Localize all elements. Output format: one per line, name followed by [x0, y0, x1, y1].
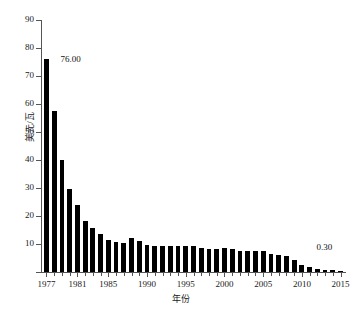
- bar: [160, 246, 165, 272]
- x-axis-tick: [333, 273, 334, 276]
- bar: [183, 246, 188, 272]
- x-axis-tick: [209, 273, 210, 276]
- x-axis-tick: [62, 273, 63, 276]
- bar: [83, 221, 88, 272]
- bar: [152, 246, 157, 272]
- x-axis-tick-label: 2000: [215, 279, 233, 289]
- x-axis-tick: [286, 273, 287, 276]
- x-axis-tick: [240, 273, 241, 276]
- x-axis-tick: [147, 273, 148, 277]
- x-axis-tick-label: 1995: [177, 279, 195, 289]
- x-axis-tick: [217, 273, 218, 276]
- x-axis-tick: [279, 273, 280, 276]
- x-axis-tick: [341, 273, 342, 277]
- y-axis-tick-label: 20: [25, 211, 34, 220]
- x-axis-tick-label: 2010: [293, 279, 311, 289]
- bar: [307, 267, 312, 272]
- x-axis-tick: [248, 273, 249, 276]
- x-axis-tick: [124, 273, 125, 276]
- bar: [284, 256, 289, 272]
- bar: [245, 251, 250, 272]
- x-axis-tick-label: 1985: [99, 279, 117, 289]
- bar: [121, 243, 126, 272]
- x-axis-tick: [232, 273, 233, 276]
- y-axis-tick-label: 90: [25, 15, 34, 24]
- bar: [207, 249, 212, 272]
- x-axis-tick: [70, 273, 71, 276]
- bar: [222, 248, 227, 272]
- bar: [90, 228, 95, 272]
- x-axis-tick-label: 2015: [332, 279, 350, 289]
- y-axis-tick: [36, 272, 41, 273]
- x-axis-tick: [139, 273, 140, 276]
- x-axis-tick-label: 1981: [68, 279, 86, 289]
- data-point-label: 76.00: [60, 55, 80, 64]
- bar: [338, 271, 343, 272]
- x-axis-tick: [186, 273, 187, 277]
- x-axis-tick: [294, 273, 295, 276]
- bar: [214, 249, 219, 272]
- bar: [168, 246, 173, 272]
- bar: [114, 242, 119, 272]
- bar: [60, 160, 65, 272]
- x-axis-tick: [263, 273, 264, 277]
- x-axis-tick: [163, 273, 164, 276]
- bar: [261, 251, 266, 272]
- x-axis-title: 年份: [0, 294, 361, 304]
- y-axis-tick-label: 30: [25, 183, 34, 192]
- bar: [106, 240, 111, 272]
- x-axis-tick: [325, 273, 326, 276]
- y-axis-tick-label: 10: [25, 239, 34, 248]
- x-axis-tick: [85, 273, 86, 276]
- bar: [292, 260, 297, 272]
- bar: [238, 251, 243, 272]
- x-axis-tick-label: 1977: [37, 279, 55, 289]
- x-axis-tick-label: 1990: [138, 279, 156, 289]
- solar-price-bar-chart: 102030405060708090 197719811985199019952…: [0, 0, 361, 317]
- data-point-label: 0.30: [317, 243, 333, 252]
- bar: [323, 270, 328, 272]
- bars-layer: [41, 20, 346, 272]
- x-axis-tick: [302, 273, 303, 277]
- x-axis-tick: [101, 273, 102, 276]
- x-axis-tick: [108, 273, 109, 277]
- bar: [98, 234, 103, 272]
- bar: [315, 269, 320, 272]
- bar: [253, 251, 258, 272]
- bar: [137, 241, 142, 272]
- x-axis-tick: [132, 273, 133, 276]
- x-axis-tick: [170, 273, 171, 276]
- bar: [75, 205, 80, 272]
- x-axis-tick: [155, 273, 156, 276]
- y-axis-tick-label: 70: [25, 71, 34, 80]
- x-axis-tick: [310, 273, 311, 276]
- bar: [52, 111, 57, 272]
- y-axis-tick-label: 80: [25, 43, 34, 52]
- y-axis-title: 美元/瓦: [25, 95, 35, 159]
- bar: [176, 246, 181, 272]
- x-axis-tick: [194, 273, 195, 276]
- bar: [330, 270, 335, 272]
- x-axis-tick-label: 2005: [254, 279, 272, 289]
- bar: [129, 238, 134, 272]
- x-axis-tick: [46, 273, 47, 277]
- bar: [145, 245, 150, 272]
- x-axis-tick: [271, 273, 272, 276]
- bar: [191, 246, 196, 272]
- x-axis-tick: [116, 273, 117, 276]
- x-axis-tick: [54, 273, 55, 276]
- x-axis-tick: [178, 273, 179, 276]
- bar: [67, 189, 72, 272]
- bar: [299, 265, 304, 272]
- x-axis-tick: [93, 273, 94, 276]
- bar: [269, 254, 274, 272]
- bar: [44, 59, 49, 272]
- x-axis-tick: [201, 273, 202, 276]
- bar: [276, 255, 281, 272]
- bar: [230, 249, 235, 272]
- x-axis-tick: [317, 273, 318, 276]
- x-axis-tick: [77, 273, 78, 277]
- x-axis-tick: [224, 273, 225, 277]
- x-axis-tick: [255, 273, 256, 276]
- bar: [199, 248, 204, 272]
